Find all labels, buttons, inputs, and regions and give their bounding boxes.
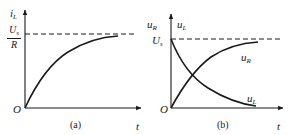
chart-b-curve-label-uR: uR bbox=[241, 52, 251, 65]
chart-a-x-axis-label: t bbox=[136, 121, 139, 132]
chart-a-origin-label: O bbox=[13, 104, 21, 115]
chart-b-curve-uL bbox=[171, 39, 256, 106]
chart-b-x-axis-label: t bbox=[277, 121, 280, 132]
chart-b-y-axis-label-uR: uR bbox=[147, 19, 157, 32]
chart-b-y-axis-label-uL: uL bbox=[177, 19, 186, 32]
chart-b bbox=[171, 14, 283, 108]
chart-b-caption: (b) bbox=[217, 120, 229, 130]
y-axis-label-sub: L bbox=[13, 13, 17, 21]
chart-a-curve-iL bbox=[25, 36, 118, 108]
curve-uR-sub: R bbox=[247, 57, 251, 65]
figure-canvas bbox=[0, 0, 290, 135]
us-sub: s bbox=[160, 40, 163, 48]
curve-uL-sub: L bbox=[253, 98, 257, 106]
frac-numerator: Us bbox=[9, 25, 19, 37]
chart-a-y-axis-label: iL bbox=[10, 8, 17, 21]
chart-b-origin-label: O bbox=[160, 104, 168, 115]
frac-num-sub: s bbox=[16, 29, 19, 37]
y-axis1-sub: R bbox=[153, 24, 157, 32]
y-axis2-sub: L bbox=[183, 24, 187, 32]
us-main: U bbox=[152, 34, 160, 46]
chart-a-caption: (a) bbox=[70, 120, 81, 130]
chart-a bbox=[25, 10, 141, 108]
chart-b-curve-label-uL: uL bbox=[247, 93, 256, 106]
chart-b-asymptote-label: Us bbox=[152, 35, 163, 48]
chart-a-asymptote-label: Us R bbox=[7, 25, 21, 50]
frac-denominator: R bbox=[11, 40, 17, 50]
